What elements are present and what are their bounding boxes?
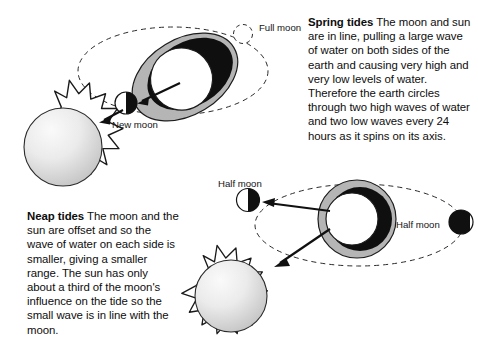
spring-tides-body: The moon and sun are in line, pulling a … — [308, 16, 470, 142]
neap-earth-tidal-ring — [318, 180, 396, 258]
neap-half-moon-left-marker — [237, 189, 260, 212]
spring-tides-heading: Spring tides — [308, 16, 373, 28]
neap-sun — [182, 245, 268, 333]
neap-tides-paragraph: Neap tides The moon and the sun are offs… — [27, 209, 179, 337]
tides-diagram-page: Spring tides The moon and sun are in lin… — [0, 0, 478, 344]
neap-half-moon-right-marker — [449, 210, 473, 234]
new-moon-label: New moon — [112, 119, 158, 130]
spring-sun — [24, 80, 123, 186]
spring-new-moon-marker — [115, 92, 137, 114]
spring-tides-paragraph: Spring tides The moon and sun are in lin… — [308, 15, 474, 143]
neap-tides-heading: Neap tides — [27, 210, 84, 222]
half-moon-left-label: Half moon — [218, 178, 262, 189]
half-moon-right-label: Half moon — [396, 219, 440, 230]
full-moon-label: Full moon — [259, 22, 301, 33]
spring-full-moon-marker — [234, 25, 253, 44]
neap-arrow-earth-to-sun — [274, 229, 330, 267]
neap-arrow-earth-to-half-moon — [262, 198, 330, 211]
neap-tides-body: The moon and the sun are offset and so t… — [27, 210, 179, 336]
